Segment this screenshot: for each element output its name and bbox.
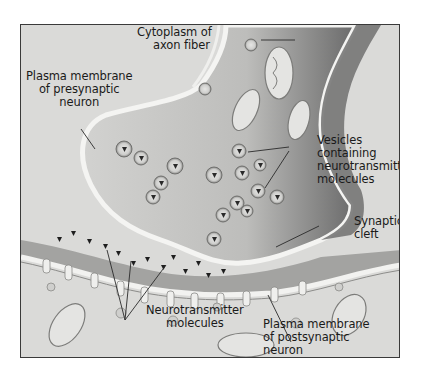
label-neurotransmitter-molecules: Neurotransmitter molecules xyxy=(146,304,244,330)
label-synaptic-cleft: Synaptic cleft xyxy=(354,215,400,241)
label-vesicles-containing-neurotransmitter: Vesicles containing neurotransmitter mol… xyxy=(317,134,400,186)
label-plasma-membrane-postsynaptic: Plasma membrane of postsynaptic neuron xyxy=(263,318,370,357)
synapse-diagram-frame: Cytoplasm of axon fiber Plasma membrane … xyxy=(20,24,400,358)
label-plasma-membrane-presynaptic: Plasma membrane of presynaptic neuron xyxy=(26,70,133,109)
label-cytoplasm-of-axon-fiber: Cytoplasm of axon fiber xyxy=(137,26,212,52)
